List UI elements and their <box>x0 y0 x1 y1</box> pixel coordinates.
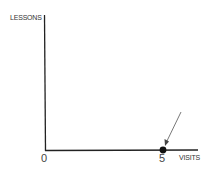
chart-plot <box>0 0 210 174</box>
arrow-shaft <box>166 112 181 143</box>
x-axis-label: VISITS <box>179 154 200 161</box>
x-axis <box>45 150 198 151</box>
arrow-head-icon <box>165 139 170 146</box>
y-axis-label: LESSONS <box>10 14 42 21</box>
x-tick-5: 5 <box>159 152 165 164</box>
y-axis <box>45 15 46 151</box>
x-tick-0: 0 <box>41 152 47 164</box>
